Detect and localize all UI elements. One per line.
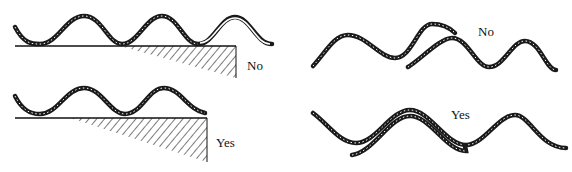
panel-bottom-right xyxy=(313,110,566,155)
label-bottom-right: Yes xyxy=(451,107,470,123)
panel-top-left xyxy=(15,16,272,78)
label-top-left: No xyxy=(247,58,263,74)
panel-bottom-left xyxy=(15,88,207,162)
diagram-stage: No Yes No Yes xyxy=(0,0,572,172)
label-bottom-left: Yes xyxy=(216,135,235,151)
panel-top-right xyxy=(313,24,556,70)
label-top-right: No xyxy=(478,24,494,40)
